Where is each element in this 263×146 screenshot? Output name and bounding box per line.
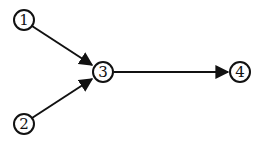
node-4: 4 — [230, 62, 250, 82]
node-1-label: 1 — [19, 11, 29, 29]
node-3-label: 3 — [98, 63, 108, 81]
node-2: 2 — [14, 114, 34, 134]
edge-1-to-3 — [32, 26, 92, 65]
node-1: 1 — [14, 10, 34, 30]
node-4-label: 4 — [235, 63, 245, 81]
node-3: 3 — [93, 62, 113, 82]
edge-2-to-3 — [32, 79, 92, 118]
node-2-label: 2 — [19, 115, 29, 133]
graph-canvas: 1 2 3 4 — [0, 0, 263, 146]
